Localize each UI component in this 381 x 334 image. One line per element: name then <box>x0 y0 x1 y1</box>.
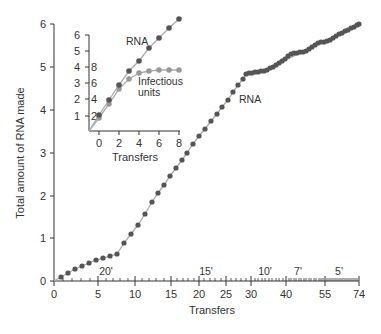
x-axis-title: Transfers <box>189 304 236 316</box>
inset-y-right-tick-8: 8 <box>91 61 97 73</box>
inset-x-tick-4: 4 <box>136 137 142 149</box>
x-tick-15: 15 <box>165 288 177 300</box>
inset-x-tick-0: 0 <box>96 137 102 149</box>
inset-y-tick-5: 5 <box>74 45 80 57</box>
main-rna-label: RNA <box>239 93 261 105</box>
main-y-axis: 0 1 2 3 4 5 6 <box>40 18 54 287</box>
inset-y-tick-2: 2 <box>74 93 80 105</box>
y-tick-0: 0 <box>40 275 46 287</box>
rna-transfer-chart: 0 1 2 3 4 5 6 Total amount of RNA made <box>0 0 381 334</box>
inset-y-right-tick-6: 6 <box>91 77 97 89</box>
y-tick-3: 3 <box>40 147 46 159</box>
inset-y-tick-1: 1 <box>74 110 80 122</box>
x-tick-25: 25 <box>220 288 232 300</box>
inset-rna-label: RNA <box>126 35 148 47</box>
inset-y-tick-4: 4 <box>74 61 80 73</box>
inset-y-right-tick-4: 4 <box>91 93 97 105</box>
time-label-15: 15' <box>199 265 213 277</box>
inset-x-tick-8: 8 <box>176 137 182 149</box>
x-tick-30: 30 <box>245 288 257 300</box>
x-tick-10: 10 <box>129 288 141 300</box>
main-rna-series <box>54 21 362 281</box>
y-tick-5: 5 <box>40 61 46 73</box>
inset-x-tick-6: 6 <box>156 137 162 149</box>
main-x-axis: 0 5 10 15 20 25 30 40 55 74 <box>51 276 365 300</box>
time-label-7: 7' <box>294 265 302 277</box>
inset-y-tick-3: 3 <box>74 77 80 89</box>
time-label-5: 5' <box>335 265 343 277</box>
inset-y-tick-6: 6 <box>74 29 80 41</box>
x-tick-20: 20 <box>193 288 205 300</box>
inset-x-tick-2: 2 <box>116 137 122 149</box>
x-tick-55: 55 <box>319 288 331 300</box>
y-tick-1: 1 <box>40 232 46 244</box>
inset-infectious-label-units: units <box>138 86 160 98</box>
y-tick-6: 6 <box>40 18 46 30</box>
time-label-10: 10' <box>258 265 272 277</box>
x-tick-74: 74 <box>353 288 365 300</box>
inset-x-axis-title: Transfers <box>112 151 159 163</box>
y-tick-2: 2 <box>40 190 46 202</box>
y-tick-4: 4 <box>40 104 46 116</box>
x-tick-0: 0 <box>51 288 57 300</box>
time-label-20: 20' <box>99 265 113 277</box>
x-tick-5: 5 <box>95 288 101 300</box>
x-tick-40: 40 <box>280 288 292 300</box>
inset-chart: 1 2 3 4 5 6 2 4 6 8 0 2 4 6 8 Transfers … <box>74 16 183 163</box>
y-axis-title: Total amount of RNA made <box>14 87 26 218</box>
